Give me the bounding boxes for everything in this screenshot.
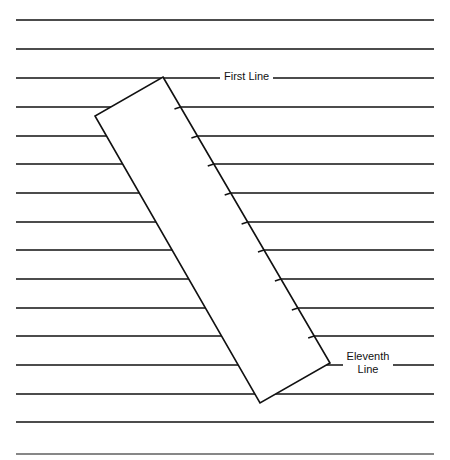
ruled-lines-diagram bbox=[0, 0, 450, 460]
eleventh-line-label: Eleventh Line bbox=[343, 350, 393, 376]
ruler bbox=[95, 77, 330, 403]
first-line-label: First Line bbox=[220, 70, 273, 83]
